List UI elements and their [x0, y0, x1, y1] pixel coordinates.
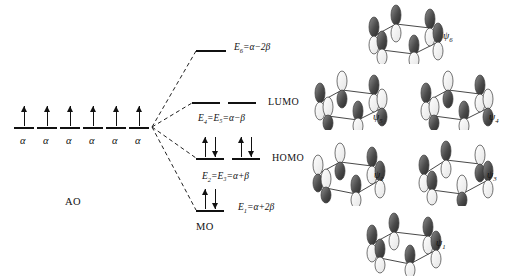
- homo-electron-pair-e3: [232, 137, 260, 157]
- electron-arrow-up: [21, 106, 28, 126]
- psi-index: 2: [380, 175, 383, 182]
- orbital-label-psi6: ψ6: [443, 31, 453, 44]
- energy-expression: =E₃=α+β: [211, 171, 249, 181]
- orbital-picture-psi5: [300, 68, 405, 130]
- mo-diagram-figure: α α α α α α AO E6=α−2β LUMO E4=E₅=α−β HO…: [0, 0, 516, 278]
- electron-arrow-up: [44, 106, 51, 126]
- ao-electron-arrows: [83, 106, 103, 126]
- electron-arrow-down: [212, 189, 219, 209]
- lumo-tag: LUMO: [268, 97, 299, 107]
- electron-arrow-up: [136, 106, 143, 126]
- psi-index: 1: [442, 243, 445, 250]
- psi-index: 6: [449, 36, 452, 43]
- ao-alpha-label: α: [20, 136, 26, 147]
- ao-alpha-label: α: [66, 136, 72, 147]
- electron-arrow-up: [202, 189, 209, 209]
- electron-arrow-up: [113, 106, 120, 126]
- ao-level-bar: [14, 127, 34, 129]
- psi-index: 3: [493, 175, 496, 182]
- mo-level-bar-e3: [232, 158, 260, 160]
- mo-electron-pair-e1: [196, 189, 224, 209]
- electron-arrow-up: [67, 106, 74, 126]
- orbital-label-psi5: ψ5: [373, 112, 383, 125]
- ao-level-bar: [83, 127, 103, 129]
- mo-group-label: MO: [196, 222, 214, 233]
- ao-electron-arrows: [37, 106, 57, 126]
- ao-level-bar: [129, 127, 149, 129]
- mo-level-bar-e6: [196, 50, 226, 52]
- orbital-label-psi4: ψ4: [489, 112, 499, 125]
- homo-tag: HOMO: [272, 153, 304, 163]
- orbital-label-psi2: ψ2: [374, 170, 384, 183]
- homo-electron-pair-e2: [196, 137, 224, 157]
- electron-arrow-down: [212, 137, 219, 157]
- electron-arrow-up: [238, 137, 245, 157]
- energy-expression: =E₅=α−β: [207, 113, 245, 123]
- ao-alpha-label: α: [43, 136, 49, 147]
- psi-index: 4: [495, 117, 498, 124]
- ao-electron-arrows: [60, 106, 80, 126]
- mo-level-bar-e4: [192, 102, 220, 104]
- ao-electron-arrows: [129, 106, 149, 126]
- orbital-label-psi3: ψ3: [487, 170, 497, 183]
- mo-level-bar-e5: [228, 102, 256, 104]
- ao-electron-arrows: [14, 106, 34, 126]
- ao-alpha-label: α: [135, 136, 141, 147]
- mo-energy-label-e2e3: E2=E₃=α+β: [202, 172, 249, 183]
- electron-arrow-up: [90, 106, 97, 126]
- energy-expression: =α−2β: [243, 42, 270, 52]
- ao-group-label: AO: [65, 197, 81, 208]
- ao-level-bar: [37, 127, 57, 129]
- ao-electron-arrows: [106, 106, 126, 126]
- electron-arrow-down: [248, 137, 255, 157]
- orbital-label-psi1: ψ1: [436, 238, 446, 251]
- psi-index: 5: [379, 117, 382, 124]
- mo-energy-label-e1: E1=α+2β: [238, 203, 274, 214]
- ao-alpha-label: α: [89, 136, 95, 147]
- energy-expression: =α+2β: [247, 202, 274, 212]
- ao-level-bar: [106, 127, 126, 129]
- mo-energy-label-e4e5: E4=E₅=α−β: [198, 114, 245, 125]
- mo-level-bar-e1: [196, 210, 224, 212]
- ao-level-bar: [60, 127, 80, 129]
- mo-energy-label-e6: E6=α−2β: [234, 43, 270, 54]
- ao-alpha-label: α: [112, 136, 118, 147]
- orbital-picture-psi2: [298, 140, 403, 206]
- electron-arrow-up: [202, 137, 209, 157]
- mo-level-bar-e2: [196, 158, 224, 160]
